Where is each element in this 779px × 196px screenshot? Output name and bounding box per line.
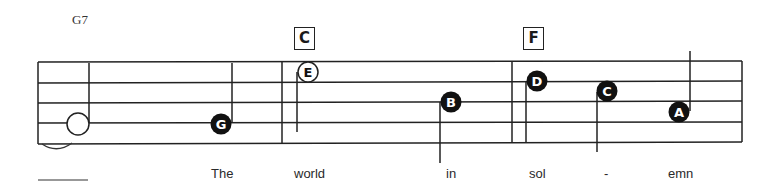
svg-text:D: D	[532, 74, 543, 89]
lyric-0: The	[211, 166, 233, 181]
note-c: C	[597, 81, 618, 153]
staff: G E B D C A	[0, 0, 779, 196]
lyric-4: -	[604, 166, 608, 181]
note-g: G	[211, 63, 233, 135]
lyric-5: emn	[668, 166, 693, 181]
note-open-1	[42, 63, 89, 149]
lyric-2: in	[446, 166, 456, 181]
note-d: D	[526, 71, 548, 143]
lyric-1: world	[294, 166, 325, 181]
note-e: E	[297, 62, 318, 132]
lyric-3: sol	[529, 166, 546, 181]
staff-lines	[38, 61, 742, 144]
note-b: B	[440, 92, 462, 164]
svg-text:E: E	[304, 65, 313, 80]
svg-text:G: G	[216, 117, 227, 132]
svg-text:B: B	[446, 95, 456, 110]
svg-text:C: C	[602, 84, 612, 99]
svg-text:A: A	[674, 105, 684, 120]
